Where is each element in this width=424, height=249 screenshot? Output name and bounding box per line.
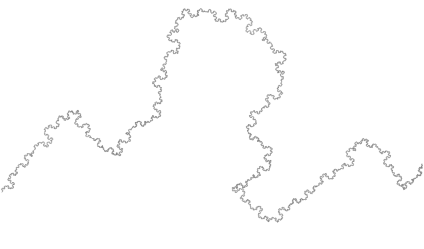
fractal-curve	[1, 9, 422, 223]
figure-caption	[60, 244, 360, 249]
fractal-curve-canvas	[0, 0, 424, 249]
fractal-figure	[0, 0, 424, 249]
